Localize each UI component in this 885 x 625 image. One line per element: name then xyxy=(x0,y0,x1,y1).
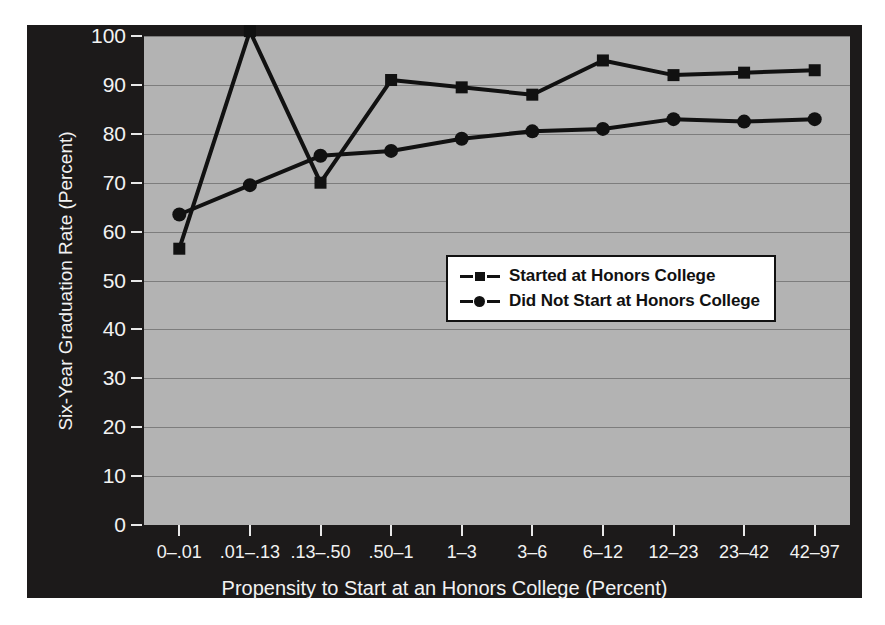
figure-canvas: Six-Year Graduation Rate (Percent) Start… xyxy=(0,0,885,625)
chart-panel: Six-Year Graduation Rate (Percent) Start… xyxy=(27,25,862,598)
x-axis-tick xyxy=(249,525,251,536)
y-axis-tick-label: 20 xyxy=(103,416,126,437)
data-point-square xyxy=(526,89,538,101)
legend-item-started: Started at Honors College xyxy=(460,263,760,288)
data-point-circle xyxy=(808,112,822,126)
data-point-circle xyxy=(737,115,751,129)
chart-legend: Started at Honors College Did Not Start … xyxy=(446,255,776,322)
y-axis-tick xyxy=(131,133,142,135)
x-axis-tick xyxy=(743,525,745,536)
x-axis-tick xyxy=(673,525,675,536)
y-axis-tick xyxy=(131,84,142,86)
data-point-square xyxy=(809,64,821,76)
y-axis-tick xyxy=(131,35,142,37)
data-point-circle xyxy=(384,144,398,158)
data-point-circle xyxy=(667,112,681,126)
data-point-square xyxy=(738,67,750,79)
y-axis-tick-label: 40 xyxy=(103,318,126,339)
data-point-circle xyxy=(525,124,539,138)
x-axis-tick xyxy=(814,525,816,536)
data-point-square xyxy=(244,25,256,37)
y-axis-tick-label: 10 xyxy=(103,465,126,486)
data-point-square xyxy=(668,69,680,81)
y-axis-tick-label: 80 xyxy=(103,123,126,144)
x-axis-title: Propensity to Start at an Honors College… xyxy=(27,577,862,600)
y-axis-tick-label: 60 xyxy=(103,221,126,242)
data-point-circle xyxy=(314,149,328,163)
y-axis-tick-label: 70 xyxy=(103,172,126,193)
data-point-circle xyxy=(596,122,610,136)
plot-area: Started at Honors College Did Not Start … xyxy=(144,36,850,525)
data-point-square xyxy=(173,243,185,255)
series-line-1 xyxy=(179,119,814,214)
y-axis-tick xyxy=(131,231,142,233)
data-point-square xyxy=(315,177,327,189)
x-axis-tick-label: 42–97 xyxy=(755,543,875,561)
y-axis-tick xyxy=(131,426,142,428)
y-axis-tick-label: 90 xyxy=(103,74,126,95)
x-axis-tick xyxy=(461,525,463,536)
data-point-square xyxy=(385,74,397,86)
y-axis-tick xyxy=(131,280,142,282)
data-point-square xyxy=(456,81,468,93)
square-marker-icon xyxy=(460,269,500,283)
data-point-circle xyxy=(455,132,469,146)
y-axis-tick-label: 30 xyxy=(103,367,126,388)
x-axis-tick xyxy=(390,525,392,536)
circle-marker-icon xyxy=(460,294,500,308)
legend-label-started: Started at Honors College xyxy=(509,266,715,286)
data-point-circle xyxy=(172,207,186,221)
x-axis-tick xyxy=(531,525,533,536)
y-axis-tick-label: 100 xyxy=(91,25,126,46)
y-axis-tick xyxy=(131,475,142,477)
y-axis-tick-label: 50 xyxy=(103,270,126,291)
y-axis-tick xyxy=(131,182,142,184)
y-axis-tick xyxy=(131,377,142,379)
x-axis-tick xyxy=(602,525,604,536)
legend-label-did-not-start: Did Not Start at Honors College xyxy=(509,291,760,311)
x-axis-tick xyxy=(178,525,180,536)
y-axis-title: Six-Year Graduation Rate (Percent) xyxy=(55,131,77,430)
y-axis-tick-label: 0 xyxy=(114,514,126,535)
legend-item-did-not-start: Did Not Start at Honors College xyxy=(460,288,760,313)
y-axis-tick xyxy=(131,524,142,526)
data-point-circle xyxy=(243,178,257,192)
x-axis-tick xyxy=(320,525,322,536)
y-axis-tick xyxy=(131,328,142,330)
data-point-square xyxy=(597,54,609,66)
series-line-0 xyxy=(179,31,814,249)
